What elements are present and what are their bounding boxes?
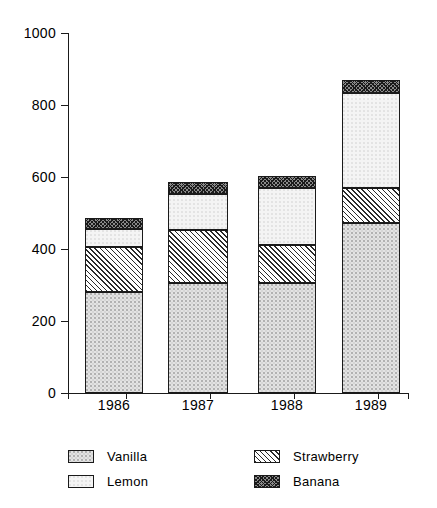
bar-segment-lemon-1988 xyxy=(258,188,316,245)
plot-area xyxy=(68,33,408,393)
chart-legend: VanillaStrawberryLemonBanana xyxy=(68,446,398,494)
x-axis-tick xyxy=(68,393,69,399)
y-axis-tick-label-wrap: 600 xyxy=(0,170,56,184)
bar-segment-vanilla-1986 xyxy=(85,292,143,393)
bar-1988 xyxy=(258,33,316,393)
y-axis-tick xyxy=(61,321,68,322)
x-axis-line xyxy=(68,393,409,394)
legend-label-banana: Banana xyxy=(293,475,340,488)
lemon-swatch-icon xyxy=(68,475,94,488)
y-axis-tick xyxy=(61,33,68,34)
bar-1989 xyxy=(342,33,400,393)
y-axis-tick-label-wrap: 800 xyxy=(0,98,56,112)
bar-segment-lemon-1989 xyxy=(342,93,400,188)
legend-label-strawberry: Strawberry xyxy=(293,450,359,463)
vanilla-swatch-icon xyxy=(68,450,94,463)
y-axis-tick xyxy=(61,177,68,178)
bar-segment-strawberry-1986 xyxy=(85,247,143,292)
y-axis-tick-label: 800 xyxy=(10,98,56,112)
bar-segment-strawberry-1987 xyxy=(168,230,228,283)
bar-1987 xyxy=(168,33,228,393)
legend-item-strawberry[interactable]: Strawberry xyxy=(254,446,359,466)
legend-label-lemon: Lemon xyxy=(107,475,148,488)
y-axis-tick xyxy=(61,249,68,250)
y-axis-tick-label-wrap: 400 xyxy=(0,242,56,256)
y-axis-tick-label: 600 xyxy=(10,170,56,184)
bar-segment-banana-1987 xyxy=(168,182,228,194)
legend-item-banana[interactable]: Banana xyxy=(254,471,340,491)
x-axis-tick-label: 1986 xyxy=(74,398,154,412)
bar-segment-banana-1989 xyxy=(342,80,400,93)
x-axis-tick-label: 1987 xyxy=(158,398,238,412)
y-axis-tick-label-wrap: 200 xyxy=(0,314,56,328)
strawberry-swatch-icon xyxy=(254,450,280,463)
banana-swatch-icon xyxy=(254,475,280,488)
bar-segment-vanilla-1987 xyxy=(168,283,228,393)
bar-segment-banana-1988 xyxy=(258,176,316,188)
bar-1986 xyxy=(85,33,143,393)
y-axis-tick-label: 1000 xyxy=(10,26,56,40)
legend-item-lemon[interactable]: Lemon xyxy=(68,471,148,491)
legend-item-vanilla[interactable]: Vanilla xyxy=(68,446,147,466)
bar-segment-lemon-1986 xyxy=(85,229,143,247)
x-axis-tick-label: 1988 xyxy=(247,398,327,412)
y-axis-tick-label: 0 xyxy=(10,386,56,400)
bar-segment-banana-1986 xyxy=(85,218,143,228)
bar-segment-strawberry-1989 xyxy=(342,188,400,223)
y-axis-tick-label-wrap: 1000 xyxy=(0,26,56,40)
bar-segment-vanilla-1988 xyxy=(258,283,316,393)
bar-segment-vanilla-1989 xyxy=(342,223,400,393)
bar-segment-strawberry-1988 xyxy=(258,245,316,283)
y-axis-tick-label: 200 xyxy=(10,314,56,328)
stacked-bar-chart: 10008006004002000 1986198719881989 Vanil… xyxy=(0,0,437,508)
bar-segment-lemon-1987 xyxy=(168,194,228,230)
x-axis-tick-label: 1989 xyxy=(331,398,411,412)
y-axis-tick-label: 400 xyxy=(10,242,56,256)
legend-label-vanilla: Vanilla xyxy=(107,450,147,463)
y-axis-tick xyxy=(61,105,68,106)
y-axis-tick-label-wrap: 0 xyxy=(0,386,56,400)
y-axis-tick xyxy=(61,393,68,394)
